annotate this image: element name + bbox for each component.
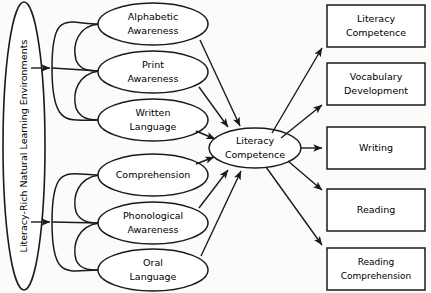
outcome-reading-comprehension-box — [327, 248, 425, 290]
arrow-hub-to-reading — [288, 161, 322, 190]
outcome-literacy-competence: Literacy Competence — [327, 5, 425, 47]
node-comprehension: Comprehension — [98, 154, 208, 196]
node-print-awareness-label-line2: Awareness — [127, 73, 178, 84]
node-alphabetic-awareness-label-line1: Alphabetic — [128, 11, 178, 22]
node-print-awareness-label-line1: Print — [142, 59, 164, 70]
node-oral-language-label-line2: Language — [130, 271, 177, 282]
brace-nested-alphabetic-print — [75, 24, 99, 71]
outcome-reading: Reading — [327, 189, 425, 231]
node-oral-language: Oral Language — [98, 249, 208, 291]
brace-nested-print-written — [75, 71, 99, 120]
node-literacy-competence-hub: Literacy Competence — [209, 128, 301, 168]
outcome-writing: Writing — [327, 127, 425, 169]
node-comprehension-label-line1: Comprehension — [116, 169, 191, 180]
diagram-canvas: Literacy-Rich Natural Learning Environme… — [0, 0, 431, 293]
outcome-literacy-competence-label-line2: Competence — [346, 27, 406, 38]
node-print-awareness: Print Awareness — [98, 51, 208, 93]
arrow-written-to-hub — [196, 131, 215, 139]
outcome-reading-comprehension-label-line1: Reading — [358, 257, 395, 267]
arrow-hub-to-literacy-competence — [272, 48, 322, 133]
brace-nested-comprehension-phonological — [75, 175, 99, 223]
outcome-vocabulary-development-label-line2: Development — [344, 85, 408, 96]
outcome-vocabulary-development: Vocabulary Development — [327, 63, 425, 105]
outcome-reading-comprehension-label-line2: Comprehension — [341, 271, 412, 281]
node-literacy-competence-hub-label-line2: Competence — [225, 149, 285, 160]
outcome-reading-comprehension: Reading Comprehension — [327, 248, 425, 290]
arrow-comprehension-to-hub — [196, 157, 214, 164]
node-alphabetic-awareness: Alphabetic Awareness — [98, 3, 208, 45]
outcome-literacy-competence-label-line1: Literacy — [357, 13, 395, 24]
source-node-label: Literacy-Rich Natural Learning Environme… — [18, 40, 29, 253]
node-oral-language-label-line1: Oral — [143, 257, 163, 268]
node-written-language: Written Language — [98, 99, 208, 141]
node-written-language-label-line1: Written — [136, 107, 171, 118]
arrow-hub-to-vocabulary-development — [281, 105, 322, 138]
arrow-oral-to-hub — [201, 171, 241, 256]
node-written-language-label-line2: Language — [130, 121, 177, 132]
outcome-reading-label-line1: Reading — [357, 204, 396, 215]
outcome-vocabulary-development-label-line1: Vocabulary — [350, 71, 403, 82]
node-phonological-awareness: Phonological Awareness — [98, 202, 208, 244]
node-phonological-awareness-label-line1: Phonological — [123, 210, 183, 221]
arrow-hub-to-reading-comprehension — [266, 167, 322, 245]
brace-nested-phonological-oral — [75, 223, 99, 270]
literacy-competence-diagram: Literacy-Rich Natural Learning Environme… — [0, 0, 431, 293]
node-alphabetic-awareness-label-line2: Awareness — [127, 25, 178, 36]
upper-cluster-brace — [52, 22, 99, 120]
lower-cluster-brace — [52, 174, 99, 271]
node-literacy-competence-hub-label-line1: Literacy — [236, 135, 274, 146]
source-node-literacy-rich-environments: Literacy-Rich Natural Learning Environme… — [3, 2, 45, 290]
node-phonological-awareness-label-line2: Awareness — [127, 224, 178, 235]
outcome-writing-label-line1: Writing — [359, 142, 393, 153]
